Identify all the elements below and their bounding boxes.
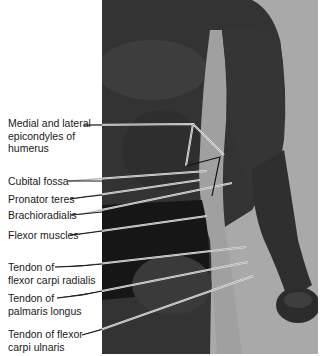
label-line: humerus: [8, 142, 91, 155]
label-brachioradialis: Brachioradialis: [8, 209, 77, 222]
label-fcu-tendon: Tendon of flexor carpi ulnaris: [8, 328, 83, 353]
label-pronator-teres: Pronator teres: [8, 193, 75, 206]
label-cubital-fossa: Cubital fossa: [8, 175, 69, 188]
label-line: carpi ulnaris: [8, 341, 83, 354]
label-line: Tendon of: [8, 261, 96, 274]
label-line: Pronator teres: [8, 193, 75, 206]
label-line: Brachioradialis: [8, 209, 77, 222]
body-silhouette: [102, 0, 318, 354]
anatomy-photo: [102, 0, 318, 354]
label-epicondyles: Medial and lateral epicondyles of humeru…: [8, 117, 91, 155]
label-line: Flexor muscles: [8, 229, 79, 242]
label-line: Cubital fossa: [8, 175, 69, 188]
label-fcr-tendon: Tendon of flexor carpi radialis: [8, 261, 96, 286]
label-line: Medial and lateral: [8, 117, 91, 130]
label-flexor-muscles: Flexor muscles: [8, 229, 79, 242]
label-line: Tendon of: [8, 292, 82, 305]
label-line: flexor carpi radialis: [8, 274, 96, 287]
label-pl-tendon: Tendon of palmaris longus: [8, 292, 82, 317]
label-line: epicondyles of: [8, 130, 91, 143]
label-line: palmaris longus: [8, 305, 82, 318]
label-line: Tendon of flexor: [8, 328, 83, 341]
